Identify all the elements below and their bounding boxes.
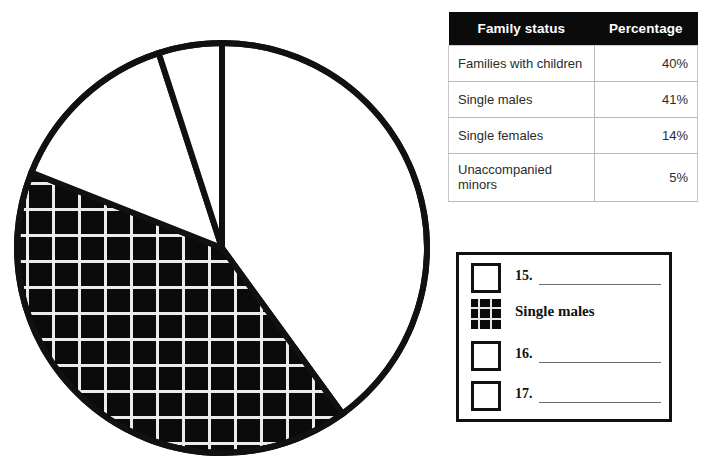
table-row: Single males 41% [449,82,698,118]
legend-item-label: Single males [515,303,595,320]
table-header-percentage: Percentage [594,12,697,46]
legend-swatch-hatched-square [471,299,501,329]
table-cell-percentage: 40% [594,46,697,82]
figure-canvas: Family status Percentage Families with c… [0,0,719,475]
table-cell-status: Single females [449,118,595,154]
table-row: Unaccompanied minors 5% [449,154,698,202]
pie-chart-svg [0,0,445,475]
table-cell-percentage: 41% [594,82,697,118]
table-cell-percentage: 5% [594,154,697,202]
legend-answer-line[interactable] [539,284,661,285]
legend-swatch-empty-square [471,341,501,371]
legend-item: 15. [471,263,665,297]
table-cell-percentage: 14% [594,118,697,154]
table-cell-status: Unaccompanied minors [449,154,595,202]
table-row: Families with children 40% [449,46,698,82]
legend-swatch-empty-square [471,263,501,293]
table-header-family-status: Family status [449,12,595,46]
table-row: Single females 14% [449,118,698,154]
legend-swatch-empty-square [471,381,501,411]
family-status-table: Family status Percentage Families with c… [448,12,698,202]
legend-item: Single males [471,299,665,333]
legend-panel: 15. Single males 16. 17. [456,252,672,422]
legend-item-number: 17. [515,386,533,402]
legend-answer-line[interactable] [539,402,661,403]
pie-chart [0,0,445,475]
legend-item: 17. [471,381,665,415]
table-cell-status: Families with children [449,46,595,82]
legend-item: 16. [471,341,665,375]
legend-item-number: 16. [515,346,533,362]
table-cell-status: Single males [449,82,595,118]
legend-answer-line[interactable] [539,362,661,363]
legend-item-number: 15. [515,268,533,284]
table-header-row: Family status Percentage [449,12,698,46]
